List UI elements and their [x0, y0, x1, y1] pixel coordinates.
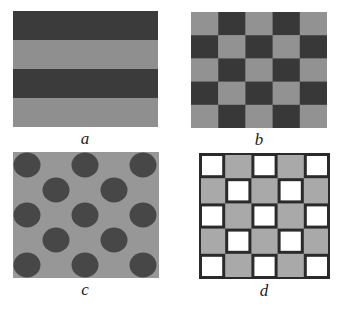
panel-c-circles: [13, 152, 159, 278]
panel-b-checkerboard: [191, 12, 327, 128]
panel-a-label: a: [65, 130, 105, 147]
checkerboard-pattern: [191, 12, 327, 128]
panel-d-label: d: [244, 282, 284, 299]
panel-d-bordered-checkerboard: [199, 153, 330, 279]
bordered-checkerboard-pattern: [199, 153, 330, 279]
stripes-pattern: [13, 11, 158, 127]
panel-c-label: c: [65, 281, 105, 298]
circles-pattern: [13, 152, 159, 278]
panel-b-label: b: [239, 131, 279, 148]
panel-a-stripes: [13, 11, 158, 127]
